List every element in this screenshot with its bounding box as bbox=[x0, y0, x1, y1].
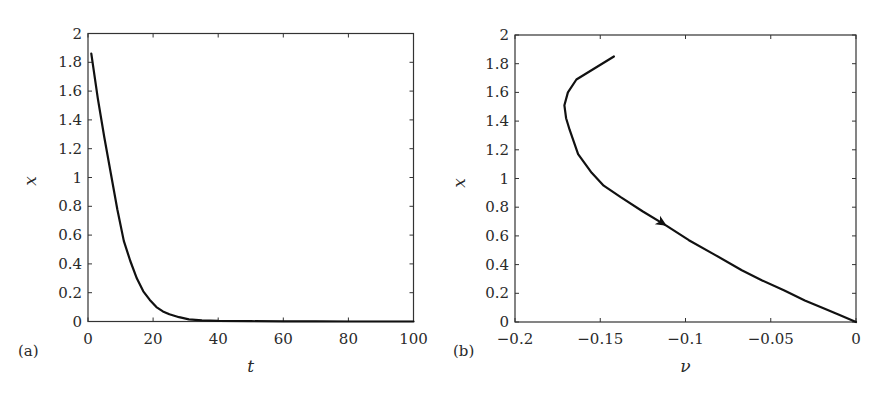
y-tick-label: 1.2 bbox=[58, 140, 82, 158]
y-tick-label: 0.4 bbox=[485, 256, 509, 274]
panel-label: (b) bbox=[453, 342, 474, 360]
y-tick-label: 1.8 bbox=[58, 53, 82, 71]
y-tick-label: 1.4 bbox=[58, 111, 82, 129]
y-tick-label: 0.2 bbox=[485, 284, 509, 302]
x-tick-label: 60 bbox=[274, 330, 293, 348]
x-tick-label: 0 bbox=[83, 330, 93, 348]
plot-frame bbox=[515, 35, 856, 322]
y-tick-label: 0.8 bbox=[485, 198, 509, 216]
x-tick-label: −0.15 bbox=[577, 330, 623, 348]
y-tick-label: 1 bbox=[499, 170, 509, 188]
y-tick-label: 0 bbox=[499, 313, 509, 331]
x-tick-label: −0.2 bbox=[497, 330, 533, 348]
x-tick-label: 80 bbox=[339, 330, 358, 348]
x-tick-label: 100 bbox=[399, 330, 428, 348]
x-tick-label: 20 bbox=[144, 330, 163, 348]
panel-label: (a) bbox=[18, 342, 39, 360]
y-tick-label: 0.8 bbox=[58, 197, 82, 215]
x-axis-label: t bbox=[247, 356, 254, 376]
x-axis-label: ν bbox=[680, 356, 690, 376]
data-line bbox=[91, 54, 413, 322]
x-tick-label: 0 bbox=[851, 330, 861, 348]
y-tick-label: 1 bbox=[72, 169, 82, 187]
direction-arrow-icon bbox=[655, 216, 670, 230]
y-tick-label: 1.6 bbox=[485, 83, 509, 101]
y-axis-label: x bbox=[449, 178, 469, 188]
y-tick-label: 0.2 bbox=[58, 284, 82, 302]
y-tick-label: 1.4 bbox=[485, 112, 509, 130]
y-tick-label: 0.6 bbox=[58, 226, 82, 244]
panel-b-phase-portrait: −0.2−0.15−0.1−0.05000.20.40.60.811.21.41… bbox=[449, 26, 861, 376]
y-tick-label: 0 bbox=[72, 313, 82, 331]
y-tick-label: 1.6 bbox=[58, 82, 82, 100]
y-tick-label: 0.4 bbox=[58, 255, 82, 273]
y-tick-label: 1.2 bbox=[485, 141, 509, 159]
panel-a-time-series: 02040608010000.20.40.60.811.21.41.61.82t… bbox=[18, 25, 428, 377]
y-axis-label: x bbox=[20, 176, 40, 186]
x-tick-label: −0.05 bbox=[748, 330, 794, 348]
figure: 02040608010000.20.40.60.811.21.41.61.82t… bbox=[0, 0, 885, 393]
x-tick-label: 40 bbox=[209, 330, 228, 348]
y-tick-label: 0.6 bbox=[485, 227, 509, 245]
y-tick-label: 2 bbox=[72, 25, 82, 43]
x-tick-label: −0.1 bbox=[667, 330, 703, 348]
y-tick-label: 2 bbox=[499, 26, 509, 44]
data-line bbox=[564, 57, 856, 323]
y-tick-label: 1.8 bbox=[485, 55, 509, 73]
